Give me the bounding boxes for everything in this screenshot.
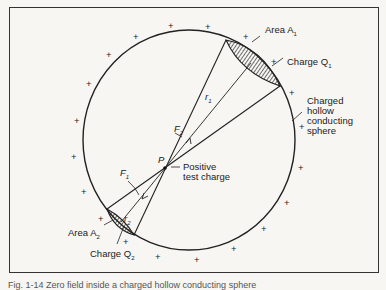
charge-q1-label: Charge Q1 (287, 57, 332, 71)
force-f2-label: F2 (174, 124, 183, 138)
plus-charge: + (298, 163, 304, 173)
plus-charge: + (81, 187, 87, 197)
force-f1-label: F1 (120, 168, 129, 182)
plus-charge: + (205, 22, 211, 32)
plus-charge: + (261, 224, 267, 234)
point-p-label: P (158, 155, 164, 165)
plus-charge: + (123, 237, 129, 247)
charge-q2-label: Charge Q2 (90, 249, 135, 263)
plus-charge: + (74, 116, 80, 126)
test-charge-point (163, 166, 167, 170)
figure-caption: Fig. 1-14 Zero field inside a charged ho… (8, 280, 256, 290)
test-charge-label: Positivetest charge (183, 162, 230, 182)
sphere-label: Chargedhollowconductingsphere (307, 96, 353, 136)
plus-charge: + (155, 252, 161, 262)
plus-charge: + (299, 122, 305, 132)
plus-charge: + (98, 214, 104, 224)
plus-charge: + (71, 152, 77, 162)
plus-charge: + (284, 198, 290, 208)
plus-charge: + (194, 255, 200, 265)
plus-charge: + (86, 79, 92, 89)
sphere-diagram (0, 0, 386, 290)
plus-charge: + (133, 32, 139, 42)
plus-charge: + (231, 244, 237, 254)
plus-charge: + (243, 32, 249, 42)
plus-charge: + (168, 21, 174, 31)
plus-charge: + (271, 57, 277, 67)
distance-r2-label: r2 (124, 214, 131, 228)
distance-r1-label: r1 (205, 92, 212, 106)
area-a2-label: Area A2 (68, 228, 100, 242)
plus-charge: + (289, 88, 295, 98)
plus-charge: + (106, 50, 112, 60)
area-a1-label: Area A1 (265, 25, 297, 39)
